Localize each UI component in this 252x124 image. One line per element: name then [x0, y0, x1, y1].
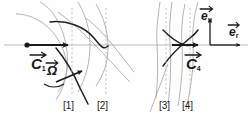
label-c1: C1	[31, 56, 46, 71]
label-c1-subscript: 1	[42, 65, 46, 72]
label-omega: Ω	[47, 64, 57, 77]
vector-arrow-overbar-e-u	[200, 5, 214, 11]
bracket-label-1: [1]	[63, 101, 74, 111]
omega-vector-arrow	[56, 71, 82, 82]
label-c4-symbol: C	[186, 55, 197, 72]
label-e-u: eu	[201, 10, 212, 22]
bracket-label-4: [4]	[182, 101, 193, 111]
label-c4-subscript: 4	[197, 65, 201, 72]
label-c4: C4	[186, 56, 201, 71]
label-e-u-symbol: e	[201, 9, 208, 23]
vector-arrow-overbar-c1	[30, 51, 48, 57]
label-e-r-symbol: e	[229, 25, 236, 39]
figure-canvas: C1 Ω C4	[0, 0, 252, 124]
bracket-label-2: [2]	[97, 101, 108, 111]
label-e-r-subscript: r	[236, 32, 239, 39]
vector-arrow-overbar-c4	[185, 51, 203, 57]
vector-arrow-overbar-e-r	[228, 21, 240, 27]
label-e-u-subscript: u	[208, 16, 212, 23]
label-c1-symbol: C	[31, 55, 42, 72]
vector-arrow-overbar-omega	[46, 59, 59, 65]
bracket-label-3: [3]	[159, 101, 170, 111]
label-e-r: er	[229, 26, 238, 38]
